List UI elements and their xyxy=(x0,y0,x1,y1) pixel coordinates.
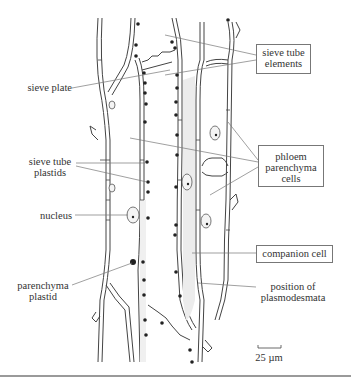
label-line: parenchyma xyxy=(14,280,72,291)
label-parenchyma-plastid: parenchyma plastid xyxy=(14,280,72,302)
scale-bar xyxy=(258,345,281,348)
nucleus-left xyxy=(127,207,139,223)
scale-bar-label: 25 µm xyxy=(252,352,286,363)
label-line: plasmodesmata xyxy=(258,292,328,303)
label-line: position of xyxy=(258,281,328,292)
bottom-divider xyxy=(0,375,351,377)
label-sieve-tube-plastids: sieve tube plastids xyxy=(24,156,76,178)
label-position-of-plasmodesmata: position of plasmodesmata xyxy=(258,281,328,303)
label-line: parenchyma xyxy=(263,162,319,173)
phloem-diagram: sieve tube elements sieve plate phloem p… xyxy=(0,0,351,384)
label-nucleus: nucleus xyxy=(20,210,72,221)
label-line: companion cell xyxy=(262,248,326,259)
label-sieve-tube-elements: sieve tube elements xyxy=(256,44,311,74)
label-line: plastids xyxy=(24,167,76,178)
label-line: plastid xyxy=(14,291,72,302)
label-sieve-plate: sieve plate xyxy=(22,82,72,93)
label-phloem-parenchyma-cells: phloem parenchyma cells xyxy=(258,145,324,187)
label-line: phloem xyxy=(263,151,319,162)
label-line: sieve tube xyxy=(261,47,306,58)
label-line: cells xyxy=(263,173,319,184)
label-companion-cell: companion cell xyxy=(256,245,333,263)
label-line: elements xyxy=(261,58,306,69)
label-line: sieve tube xyxy=(24,156,76,167)
left-outer-wall xyxy=(97,18,106,362)
companion-cell xyxy=(183,76,195,320)
